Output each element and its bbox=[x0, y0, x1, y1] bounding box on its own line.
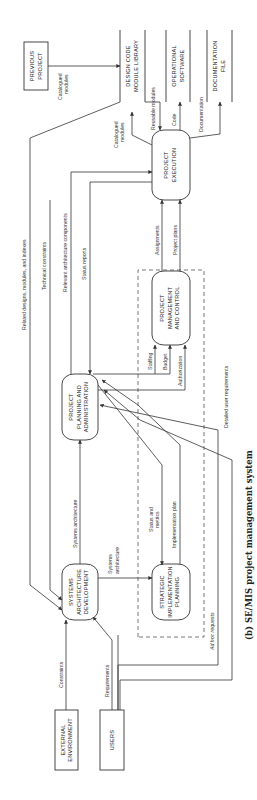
strategic-implementation-planning-process[interactable]: STRATEGIC IMPLEMENTATION PLANNING bbox=[152, 564, 190, 620]
flow-reusable-modules-label: Reusable modules bbox=[150, 87, 156, 130]
previous-project-label-1: PREVIOUS bbox=[29, 51, 35, 82]
flow-cm-exec-label-2: modules bbox=[119, 122, 125, 142]
flow-catalogued-modules-execution: Catalogued modules bbox=[113, 112, 152, 148]
flow-systems-architecture-label: Systems architecture bbox=[72, 499, 78, 548]
project-management-dataflow-diagram: EXTERNAL ENVIRONMENT USERS SYSTEMS ARCHI… bbox=[0, 0, 257, 800]
pe-label-2: EXECUTION bbox=[171, 148, 177, 182]
ppa-label-2: PLANNING AND bbox=[76, 385, 82, 429]
flow-cm-prev-label-2: modules bbox=[63, 74, 69, 94]
flow-catalogued-modules-previous: Catalogued modules bbox=[48, 66, 120, 100]
project-execution-process[interactable]: PROJECT EXECUTION bbox=[152, 130, 190, 200]
sad-label-3: DEVELOPMENT bbox=[83, 569, 89, 614]
external-environment-box[interactable]: EXTERNAL ENVIRONMENT bbox=[55, 710, 78, 770]
flow-relevant-architecture-components: Relevant architecture components bbox=[62, 172, 152, 374]
flow-constraints-label: Constraints bbox=[58, 661, 64, 688]
previous-project-label-2: PROJECT bbox=[37, 52, 43, 80]
flow-assignments-label: Assignments bbox=[154, 225, 160, 255]
sad-label-2: ARCHITECTURE bbox=[76, 569, 82, 615]
flow-staffing-label: Staffing bbox=[147, 352, 153, 370]
flow-code-label: Code bbox=[171, 113, 177, 126]
flow-reusable-modules: Reusable modules bbox=[145, 87, 160, 130]
flow-technical-constraints: Technical constraints bbox=[41, 200, 62, 600]
external-environment-label-2: ENVIRONMENT bbox=[67, 718, 73, 762]
flow-systems-architecture-to-sip: Systems architecture bbox=[98, 547, 152, 578]
flow-rac-label: Relevant architecture components bbox=[62, 213, 68, 292]
flow-documentation-label: Documentation bbox=[198, 97, 204, 132]
flow-sa-sip-label-1: Systems bbox=[107, 554, 113, 574]
pe-label-1: PROJECT bbox=[163, 151, 169, 179]
flow-technical-constraints-label: Technical constraints bbox=[41, 241, 47, 290]
users-label: USERS bbox=[109, 730, 115, 750]
flow-systems-architecture: Systems architecture bbox=[72, 440, 80, 564]
docfile-label-2: FILE bbox=[220, 60, 226, 73]
diagram-stage: EXTERNAL ENVIRONMENT USERS SYSTEMS ARCHI… bbox=[0, 0, 257, 800]
library-label-1: DESIGN CODE bbox=[125, 45, 131, 86]
previous-project-box[interactable]: PREVIOUS PROJECT bbox=[24, 42, 48, 90]
docfile-label-1: DOCUMENTATION bbox=[212, 40, 218, 91]
sad-label-1: SYSTEMS bbox=[68, 578, 74, 606]
flow-related-designs: Related designs, modules, and indexes bbox=[21, 102, 120, 610]
flow-related-designs-label: Related designs, modules, and indexes bbox=[21, 239, 27, 330]
flow-staffing: Staffing bbox=[147, 345, 155, 374]
flow-implementation-plan-label: Implementation plan bbox=[171, 501, 177, 548]
flow-status-reports: Status reports bbox=[81, 182, 152, 374]
flow-ad-hoc-requests-label: Ad hoc requests bbox=[209, 612, 215, 651]
library-label-2: MODULE LIBRARY bbox=[133, 40, 139, 92]
pmc-label-3: AND CONTROL bbox=[174, 287, 180, 330]
systems-architecture-development-process[interactable]: SYSTEMS ARCHITECTURE DEVELOPMENT bbox=[62, 564, 98, 620]
opsoft-label-1: OPERATIONAL bbox=[171, 45, 177, 87]
flow-requirements: Requirements bbox=[93, 617, 112, 710]
flow-project-plans: Project plans bbox=[172, 200, 180, 271]
external-environment-label-1: EXTERNAL bbox=[60, 724, 66, 755]
flow-status-metrics-label-2: metrics bbox=[154, 511, 160, 528]
project-planning-administration-process[interactable]: PROJECT PLANNING AND ADMINISTRATION bbox=[62, 374, 98, 440]
flow-sa-sip-label-2: architecture bbox=[114, 547, 120, 574]
flow-documentation: Documentation bbox=[190, 97, 220, 138]
pmc-label-1: PROJECT bbox=[159, 294, 165, 322]
opsoft-label-2: SOFTWARE bbox=[179, 49, 185, 82]
figure-caption: (b) SE/MIS project management system bbox=[244, 450, 254, 640]
flow-detailed-user-requirements-label: Detailed user requirements bbox=[223, 365, 229, 428]
sip-label-3: PLANNING bbox=[174, 577, 180, 607]
ppa-label-3: ADMINISTRATION bbox=[83, 382, 89, 432]
documentation-file-store[interactable]: DOCUMENTATION FILE bbox=[207, 30, 232, 102]
flow-requirements-label: Requirements bbox=[104, 664, 110, 697]
design-code-module-library-store[interactable]: DESIGN CODE MODULE LIBRARY bbox=[120, 30, 145, 102]
project-management-control-process[interactable]: PROJECT MANAGEMENT AND CONTROL bbox=[152, 271, 190, 345]
users-box[interactable]: USERS bbox=[100, 710, 124, 770]
flow-assignments: Assignments bbox=[154, 200, 162, 271]
flow-authorization-label: Authorization bbox=[177, 356, 183, 386]
ppa-label-1: PROJECT bbox=[68, 393, 74, 421]
flow-authorization: Authorization bbox=[98, 345, 185, 390]
sip-label-1: STRATEGIC bbox=[159, 575, 165, 608]
flow-project-plans-label: Project plans bbox=[172, 225, 178, 255]
flow-status-reports-label: Status reports bbox=[81, 247, 87, 280]
flow-budget: Budget bbox=[93, 345, 170, 374]
flow-budget-label: Budget bbox=[162, 353, 168, 370]
flow-code: Code bbox=[171, 102, 180, 130]
sip-label-2: IMPLEMENTATION bbox=[167, 566, 173, 618]
flow-constraints: Constraints bbox=[58, 620, 66, 710]
pmc-label-2: MANAGEMENT bbox=[167, 287, 173, 329]
operational-software-store[interactable]: OPERATIONAL SOFTWARE bbox=[166, 30, 190, 102]
